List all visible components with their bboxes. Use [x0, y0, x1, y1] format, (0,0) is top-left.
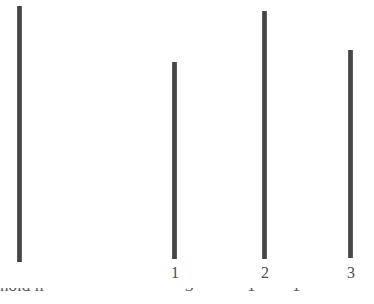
bottom-caption-segment-4: 1: [292, 288, 301, 294]
bar-3: [348, 50, 353, 258]
bar-shading: [262, 11, 267, 259]
plot-area: 1 2 3: [0, 0, 374, 304]
tick-label-2: 2: [253, 265, 277, 281]
tick-label-3: 3: [339, 265, 363, 281]
bottom-caption-segment-1: hold li: [0, 288, 44, 294]
bottom-caption-segment-2: 3: [185, 288, 194, 294]
bar-shading: [348, 50, 353, 258]
bar-shading: [172, 62, 177, 259]
bottom-caption-strip: hold li 3 1 1: [0, 288, 374, 304]
bar-shading: [17, 6, 22, 262]
bar-1: [172, 62, 177, 259]
bottom-caption-segment-3: 1: [247, 288, 256, 294]
bar-2: [262, 11, 267, 259]
bar-unlabeled: [17, 6, 22, 262]
tick-label-1: 1: [163, 265, 187, 281]
scanned-bar-figure: 1 2 3 hold li 3 1 1: [0, 0, 374, 304]
